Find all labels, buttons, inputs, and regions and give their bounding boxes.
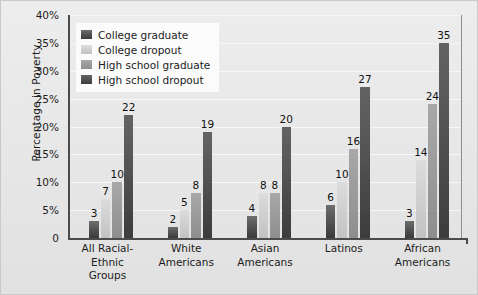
bar-value-label: 5 [181, 196, 188, 208]
legend-item[interactable]: College dropout [81, 42, 210, 57]
bar-value-label: 8 [193, 179, 200, 191]
bar-value-label: 24 [426, 90, 439, 102]
bar-slot: 8 [270, 15, 280, 238]
bar-value-label: 35 [437, 29, 450, 41]
x-axis-tick-label: All Racial-EthnicGroups [68, 242, 147, 283]
bar[interactable]: 5 [180, 210, 190, 238]
x-axis-tick-label: WhiteAmericans [147, 242, 226, 269]
x-axis-tick-line: Americans [383, 256, 462, 270]
x-axis-tick-line: White [147, 242, 226, 256]
bar-slot: 4 [247, 15, 257, 238]
bar[interactable]: 20 [282, 127, 292, 239]
bar-slot: 20 [282, 15, 292, 238]
bar[interactable]: 24 [428, 104, 438, 238]
bar-value-label: 3 [406, 207, 413, 219]
y-axis-tick-label: 25% [0, 93, 59, 105]
bar-slot: 10 [337, 15, 347, 238]
bar[interactable]: 10 [112, 182, 122, 238]
legend-swatch-icon [81, 60, 92, 69]
bar[interactable]: 19 [203, 132, 213, 238]
x-axis-baseline [68, 238, 468, 240]
bar[interactable]: 10 [337, 182, 347, 238]
bar-group: 48820 [247, 15, 291, 238]
legend: College graduateCollege dropoutHigh scho… [76, 23, 219, 92]
y-axis-tick-label: 5% [0, 204, 59, 216]
legend-item[interactable]: High school graduate [81, 57, 210, 72]
bar-slot: 24 [428, 15, 438, 238]
bar-group-bars: 48820 [247, 15, 291, 238]
bar-value-label: 8 [271, 179, 278, 191]
x-axis-end-tick [466, 238, 468, 244]
bar-value-label: 4 [248, 202, 255, 214]
legend-item-label: High school graduate [98, 59, 210, 71]
bar[interactable]: 3 [89, 221, 99, 238]
bar[interactable]: 8 [259, 193, 269, 238]
bar[interactable]: 35 [439, 43, 449, 238]
bar-group-bars: 3142435 [405, 15, 449, 238]
y-axis-tick-label: 20% [0, 121, 59, 133]
bar-value-label: 19 [201, 118, 214, 130]
bar-slot: 8 [259, 15, 269, 238]
bar[interactable]: 2 [168, 227, 178, 238]
bar-value-label: 7 [102, 185, 109, 197]
y-axis-tick-label: 35% [0, 37, 59, 49]
x-axis-tick-line: All Racial-Ethnic [68, 242, 147, 269]
bar-value-label: 14 [414, 146, 427, 158]
legend-item[interactable]: College graduate [81, 27, 210, 42]
bar-slot: 3 [405, 15, 415, 238]
legend-item-label: High school dropout [98, 74, 204, 86]
bar-value-label: 10 [335, 168, 348, 180]
bar[interactable]: 14 [416, 160, 426, 238]
x-axis-tick-label: AfricanAmericans [383, 242, 462, 269]
bar[interactable]: 7 [101, 199, 111, 238]
bar-value-label: 20 [280, 113, 293, 125]
bar[interactable]: 4 [247, 216, 257, 238]
y-axis-tick-label: 30% [0, 65, 59, 77]
y-axis-tick-label: 0 [0, 232, 59, 244]
bar[interactable]: 8 [270, 193, 280, 238]
plot-right-border [461, 15, 462, 238]
legend-item-label: College graduate [98, 29, 188, 41]
bar-slot: 14 [416, 15, 426, 238]
bar-slot: 6 [326, 15, 336, 238]
bar[interactable]: 6 [326, 205, 336, 238]
x-axis-tick-line: Latinos [304, 242, 383, 256]
bar-slot: 27 [360, 15, 370, 238]
bar-value-label: 10 [110, 168, 123, 180]
bar[interactable]: 3 [405, 221, 415, 238]
x-axis-tick-label: AsianAmericans [226, 242, 305, 269]
bar-value-label: 2 [170, 213, 177, 225]
bar-value-label: 8 [260, 179, 267, 191]
bar[interactable]: 27 [360, 87, 370, 238]
bar-slot: 35 [439, 15, 449, 238]
y-axis-tick-label: 15% [0, 148, 59, 160]
legend-swatch-icon [81, 45, 92, 54]
x-axis-tick-line: Groups [68, 269, 147, 283]
legend-item-label: College dropout [98, 44, 182, 56]
bar-group-bars: 6101627 [326, 15, 370, 238]
x-axis-tick-line: African [383, 242, 462, 256]
bar-group: 3142435 [405, 15, 449, 238]
bar-value-label: 27 [358, 73, 371, 85]
bar-slot: 16 [349, 15, 359, 238]
bar-value-label: 16 [347, 135, 360, 147]
bar[interactable]: 22 [124, 115, 134, 238]
poverty-education-bar-chart: Percentage in Poverty 371022258194882061… [0, 0, 478, 295]
x-axis-tick-line: Asian [226, 242, 305, 256]
bar-value-label: 6 [327, 191, 334, 203]
x-axis-tick-label: Latinos [304, 242, 383, 256]
bar[interactable]: 8 [191, 193, 201, 238]
bar-value-label: 3 [91, 207, 98, 219]
legend-swatch-icon [81, 75, 92, 84]
x-axis-tick-line: Americans [147, 256, 226, 270]
legend-item[interactable]: High school dropout [81, 72, 210, 87]
legend-swatch-icon [81, 30, 92, 39]
bar[interactable]: 16 [349, 149, 359, 238]
x-axis-tick-line: Americans [226, 256, 305, 270]
y-axis-tick-label: 10% [0, 176, 59, 188]
bar-value-label: 22 [122, 101, 135, 113]
bar-group: 6101627 [326, 15, 370, 238]
y-axis-tick-label: 40% [0, 9, 59, 21]
